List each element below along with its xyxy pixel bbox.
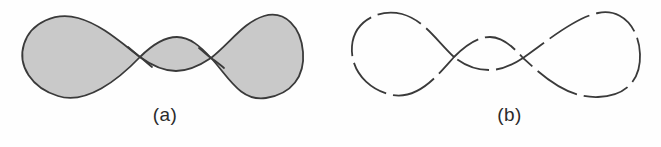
left-lobe-shape-b [352, 13, 454, 96]
figure-panel-b: (b) [330, 0, 661, 147]
figure-container: (a) (b) [0, 0, 661, 147]
left-lobe-shape-a [22, 16, 140, 98]
figure-panel-a: (a) [0, 0, 330, 147]
panel-a-caption: (a) [0, 104, 330, 126]
right-lobe-shape-a [211, 15, 303, 99]
right-lobe-shape-b [523, 12, 640, 97]
panel-b-caption: (b) [330, 104, 661, 126]
center-lobe-shape-b [454, 37, 523, 70]
